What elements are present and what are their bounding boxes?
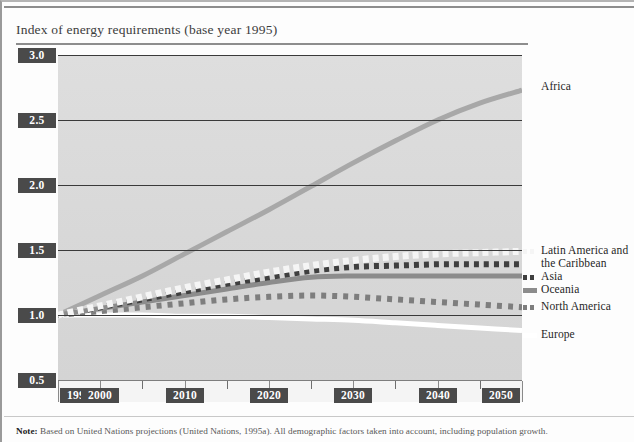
legend-swatch [523,288,537,293]
legend-swatch [523,275,537,280]
gridline [58,315,522,316]
figure-note: Note: Based on United Nations projection… [16,426,628,436]
legend-label: Europe [541,328,575,340]
y-axis-tick-label: 2.5 [18,113,56,128]
legend-swatch [523,305,537,310]
title-underline [16,43,528,45]
legend-label: Africa [541,80,571,92]
legend-swatch [523,333,537,338]
legend-swatch [523,249,537,254]
x-axis-tick-label: 2040 [419,388,457,403]
y-axis-tick-label: 0.5 [18,373,56,388]
legend-label: Latin America and [541,244,628,256]
legend-label: North America [541,300,611,312]
x-axis-tickmark-minor [227,381,228,389]
figure-page: Index of energy requirements (base year … [0,0,634,442]
top-rule [4,6,634,8]
x-axis-tickmark-minor [311,381,312,389]
x-axis-tickmark-minor [142,381,143,389]
x-axis-tickmark [58,381,59,402]
y-axis-tick-label: 1.0 [18,308,56,323]
gridline [58,250,522,251]
gridline [58,120,522,121]
series-line-europe [58,315,522,331]
y-axis-tick-label: 3.0 [18,48,56,63]
x-axis-tick-label: 2010 [166,388,204,403]
gridline [58,185,522,186]
y-axis-tick-label: 1.5 [18,243,56,258]
legend-label: the Caribbean [541,257,606,269]
x-axis-tickmark-minor [480,381,481,389]
note-text: Based on United Nations projections (Uni… [38,426,548,436]
x-axis-tick-label: 2050 [482,388,520,403]
x-axis-tick-label: 2000 [81,388,119,403]
chart-series-layer [58,55,522,380]
page-title: Index of energy requirements (base year … [16,22,277,38]
y-axis-tick-label: 2.0 [18,178,56,193]
note-label: Note: [16,426,38,436]
x-axis-tickmark-minor [395,381,396,389]
legend-label: Asia [541,270,562,282]
note-rule [4,416,634,417]
x-axis-tick-label: 2020 [250,388,288,403]
plot-area [58,55,522,380]
x-axis-tickmark [522,381,523,402]
gridline [58,55,522,56]
legend-label: Oceania [541,283,579,295]
x-axis-tick-label: 2030 [334,388,372,403]
